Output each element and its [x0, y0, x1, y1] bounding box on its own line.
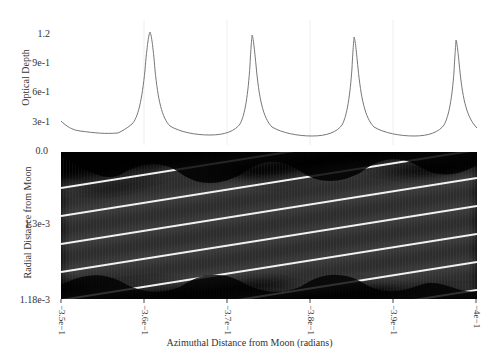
radial-heatmap-plot: 0.0 1.3e-3 1.18e-3 Radial Distance from …	[0, 145, 499, 358]
azimuthal-distance-axis-title: Azimuthal Distance from Moon (radians)	[0, 337, 499, 348]
xtick-3-6e-1: −3.6e−1	[140, 305, 150, 335]
xtick-4e-1: −4e−1	[472, 305, 482, 328]
optical-depth-curve	[61, 32, 477, 136]
xtick-3-8e-1: −3.8e−1	[306, 305, 316, 335]
optical-depth-plot: 1.2 9e-1 6e-1 3e-1 Optical Depth	[0, 0, 499, 145]
optical-depth-axis-title: Optical Depth	[20, 43, 31, 113]
radial-distance-axis-title: Radial Distance from Moon	[22, 163, 33, 283]
xtick-3-7e-1: −3.7e−1	[223, 305, 233, 335]
ytick-1-18e-3: 1.18e-3	[10, 294, 50, 305]
optical-depth-line-svg	[0, 0, 499, 145]
ytick-0-0: 0.0	[8, 145, 48, 156]
xtick-3-9e-1: −3.9e−1	[389, 305, 399, 335]
ytick-3e-1: 3e-1	[10, 116, 50, 127]
xtick-3-5e-1: −3.5e−1	[57, 305, 67, 335]
heatmap-svg	[0, 145, 499, 358]
ytick-1-2: 1.2	[10, 28, 50, 39]
